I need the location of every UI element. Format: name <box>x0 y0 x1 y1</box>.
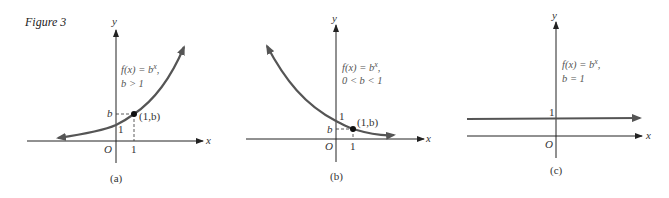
panel-a: x y O 1 1 b (1,b) f(x) = bx, b > 1 (a) <box>27 15 211 185</box>
x-axis-label: x <box>205 134 211 146</box>
y-tick-1-label: 1 <box>549 106 555 118</box>
y-axis-label: y <box>551 9 557 21</box>
origin-label: O <box>325 140 333 152</box>
x-axis-label: x <box>645 129 651 141</box>
point-label: (1,b) <box>139 110 160 123</box>
point-1-b <box>131 111 137 117</box>
panel-caption: (a) <box>110 172 123 185</box>
origin-label: O <box>545 138 553 150</box>
x-tick-1-label: 1 <box>350 140 356 152</box>
figure-3: Figure 3 x y O 1 1 b (1,b) f(x) = bx, b … <box>0 0 669 198</box>
condition-label: 0 < b < 1 <box>342 75 382 86</box>
point-label: (1,b) <box>357 116 378 129</box>
function-label: f(x) = bx, <box>562 57 600 71</box>
panel-c: x y O 1 f(x) = bx, b = 1 (c) <box>467 9 651 177</box>
condition-label: b = 1 <box>562 73 585 84</box>
origin-label: O <box>104 143 112 155</box>
panel-caption: (b) <box>330 170 343 183</box>
b-label: b <box>327 123 333 135</box>
panel-b: x y O 1 1 b (1,b) f(x) = bx, 0 < b < 1 (… <box>246 12 431 183</box>
b-label: b <box>107 107 113 119</box>
x-axis-label: x <box>425 132 431 144</box>
function-label: f(x) = bx, <box>342 60 380 74</box>
point-1-b <box>350 126 356 132</box>
y-tick-1-label: 1 <box>339 110 345 122</box>
constant-function-line <box>467 118 640 119</box>
y-tick-1-label: 1 <box>118 123 124 135</box>
figure-title: Figure 3 <box>24 15 66 29</box>
y-axis-label: y <box>111 15 117 27</box>
condition-label: b > 1 <box>121 78 144 89</box>
y-axis-label: y <box>331 12 337 24</box>
panel-caption: (c) <box>550 164 563 177</box>
x-tick-1-label: 1 <box>131 143 137 155</box>
function-label: f(x) = bx, <box>121 62 159 76</box>
